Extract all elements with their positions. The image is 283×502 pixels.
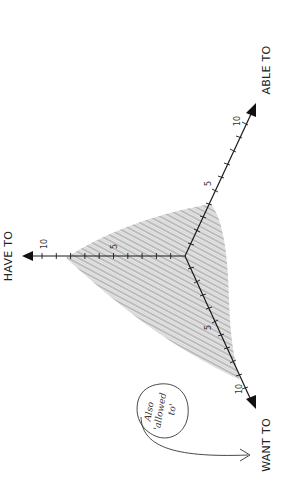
able-to-tick-5: 5 — [204, 181, 213, 186]
have-to-tick-10: 10 — [40, 239, 49, 249]
arrowhead-icon — [22, 251, 33, 261]
have-to-tick-5: 5 — [110, 244, 119, 249]
able-to-label: ABLE TO — [260, 45, 273, 94]
triangle-diagram: 5 10 HAVE TO 5 10 ABLE TO — [0, 0, 283, 502]
want-to-label: WANT TO — [260, 418, 273, 472]
want-to-tick-10: 10 — [235, 384, 244, 394]
arrowhead-icon — [246, 103, 256, 117]
shaded-region — [66, 204, 240, 380]
able-to-tick-10: 10 — [233, 116, 242, 126]
annotation-bubble: Also 'allowed to' — [137, 384, 250, 461]
want-to-tick-5: 5 — [204, 325, 213, 330]
note-line-3: to' — [166, 403, 178, 416]
arrowhead-icon — [246, 395, 256, 409]
have-to-label: HAVE TO — [2, 231, 15, 282]
